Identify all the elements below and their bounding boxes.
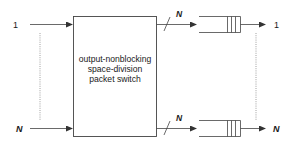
switch-title-line-3: packet switch — [89, 74, 141, 84]
output-n-bus-label: N — [176, 113, 183, 123]
diagram-canvas: 1 N output-nonblocking space-division pa… — [0, 0, 295, 150]
bus-slash-icon — [164, 17, 170, 31]
output-queue-n — [199, 121, 241, 137]
output-queue-1 — [199, 17, 241, 33]
output-1-label: 1 — [274, 20, 279, 30]
switch-title-line-2: space-division — [88, 64, 143, 74]
input-1-label: 1 — [13, 20, 18, 30]
input-n: N — [16, 124, 72, 134]
output-n: N N — [157, 113, 281, 137]
input-n-label: N — [16, 124, 23, 134]
packet-switch-box: output-nonblocking space-division packet… — [74, 17, 157, 137]
output-1-bus-label: N — [176, 9, 183, 19]
input-1: 1 — [13, 20, 72, 30]
bus-slash-icon — [164, 121, 170, 135]
output-n-label: N — [273, 124, 280, 134]
switch-title-line-1: output-nonblocking — [79, 54, 152, 64]
output-1: N 1 — [157, 9, 280, 33]
